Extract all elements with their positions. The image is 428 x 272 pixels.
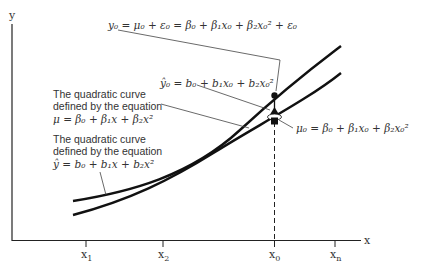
- yhat0-equation: ŷ₀ = b₀ + b₁x₀ + b₂x₀²: [159, 77, 274, 89]
- predicted-point-yhat0: [270, 107, 279, 115]
- observed-point-y0: [271, 92, 277, 98]
- tick-label-x1: x1: [81, 248, 92, 263]
- true-curve-label-line2: defined by the equation: [53, 100, 162, 112]
- fitted-curve-label-line1: The quadratic curve: [53, 133, 146, 145]
- tick-label-x2: x2: [158, 248, 169, 263]
- mu0-equation: μ₀ = β₀ + β₁x₀ + β₂x₀²: [296, 122, 409, 134]
- y0-leader-drop: [276, 60, 280, 91]
- true-curve-label-line1: The quadratic curve: [53, 88, 146, 100]
- true-curve-leader: [161, 104, 249, 128]
- x-axis-label: x: [364, 234, 371, 247]
- fitted-curve-equation: ŷ = b₀ + b₁x + b₂x²: [52, 158, 154, 170]
- y-axis-label: y: [8, 9, 16, 22]
- tick-label-x0: x0: [269, 248, 280, 263]
- mean-point-mu0: [271, 118, 278, 125]
- fitted-curve-leader: [100, 172, 106, 195]
- y0-leader: [118, 30, 280, 60]
- mu0-leader: [279, 120, 293, 128]
- true-curve-equation: μ = β₀ + β₁x + β₂x²: [53, 113, 153, 125]
- y0-equation: y₀ = μ₀ + ε₀ = β₀ + β₁x₀ + β₂x₀² + ε₀: [107, 19, 298, 31]
- fitted-curve-label-line2: defined by the equation: [53, 145, 162, 157]
- tick-label-xn: xn: [330, 248, 341, 263]
- regression-diagram: y x x1 x2 x0 xn y₀ = μ₀ + ε₀ = β₀ + β₁x₀…: [0, 0, 428, 272]
